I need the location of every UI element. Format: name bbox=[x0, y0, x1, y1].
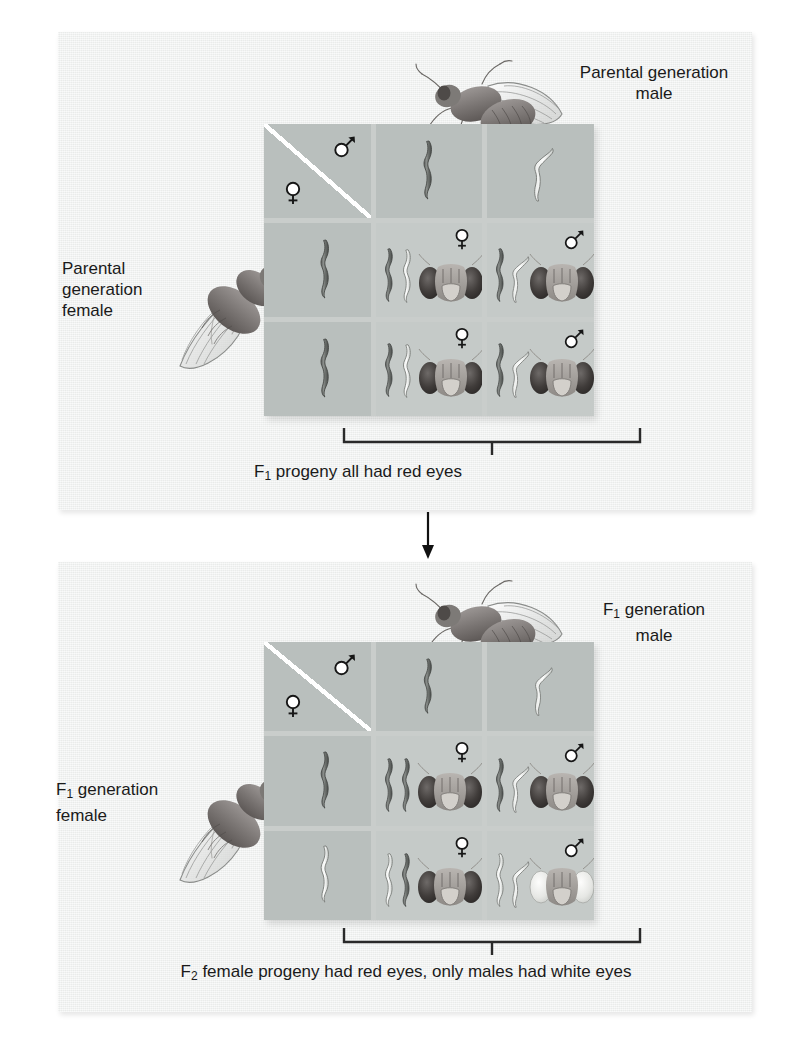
x-chromosome-dark bbox=[380, 340, 400, 402]
f1-female-label: F1 generation female bbox=[56, 758, 216, 826]
f1-progeny-bracket bbox=[340, 424, 644, 456]
x-chromosome-dark bbox=[315, 750, 337, 812]
punnett-corner-header bbox=[264, 124, 371, 218]
y-chromosome-light bbox=[528, 141, 558, 205]
offspring-cell-female-red bbox=[376, 223, 483, 317]
offspring-cell-male-white bbox=[487, 831, 594, 920]
f1-male-label-prefix: F bbox=[603, 600, 613, 619]
female-gamete-x-dark bbox=[264, 736, 371, 825]
x-chromosome-light bbox=[398, 342, 418, 402]
punnett-corner-header bbox=[264, 642, 371, 731]
fly-head-red-eyes bbox=[418, 348, 483, 404]
fly-head-red-eyes bbox=[529, 348, 594, 404]
x-chromosome-dark bbox=[418, 139, 440, 203]
x-chromosome-light bbox=[315, 844, 337, 906]
f2-caption-prefix: F bbox=[181, 962, 191, 981]
down-arrow-icon bbox=[418, 512, 438, 560]
fly-head-red-eyes bbox=[417, 857, 483, 913]
y-chromosome-light bbox=[528, 661, 558, 719]
fly-head-white-eyes bbox=[529, 857, 594, 913]
f2-progeny-bracket bbox=[340, 924, 644, 956]
offspring-cell-male-red bbox=[487, 736, 594, 825]
female-symbol bbox=[280, 693, 306, 719]
f1-male-label-subscript: 1 bbox=[613, 607, 620, 621]
x-chromosome-light bbox=[398, 247, 418, 307]
male-gamete-x bbox=[376, 642, 483, 731]
female-gamete-x-1 bbox=[264, 223, 371, 317]
f1-male-label: F1 generation male bbox=[556, 578, 752, 646]
parental-female-label: Parental generation female bbox=[62, 258, 212, 321]
x-chromosome-dark bbox=[397, 756, 417, 816]
male-symbol bbox=[331, 652, 357, 678]
male-symbol bbox=[331, 134, 357, 160]
female-gamete-x-light bbox=[264, 831, 371, 920]
female-symbol bbox=[280, 180, 306, 206]
f2-caption-rest: female progeny had red eyes, only males … bbox=[198, 962, 632, 981]
f1-caption-prefix: F bbox=[254, 462, 264, 481]
x-chromosome-dark bbox=[315, 237, 337, 303]
offspring-cell-male-red bbox=[487, 322, 594, 416]
fly-head-red-eyes bbox=[417, 762, 483, 818]
x-chromosome-dark bbox=[380, 245, 400, 307]
male-gamete-y bbox=[487, 124, 594, 218]
male-gamete-x bbox=[376, 124, 483, 218]
f1-caption-rest: progeny all had red eyes bbox=[271, 462, 462, 481]
offspring-cell-female-red bbox=[376, 322, 483, 416]
f1-female-label-prefix: F bbox=[56, 780, 66, 799]
offspring-cell-female-red bbox=[376, 736, 483, 825]
x-chromosome-dark bbox=[315, 336, 337, 402]
x-chromosome-dark bbox=[397, 851, 417, 911]
x-chromosome-dark bbox=[418, 657, 440, 717]
fly-head-red-eyes bbox=[529, 762, 594, 818]
fly-head-red-eyes bbox=[529, 253, 594, 309]
genetics-figure: Parental generation male Parental genera… bbox=[0, 0, 796, 1050]
male-symbol bbox=[562, 227, 586, 253]
male-gamete-y bbox=[487, 642, 594, 731]
f1-male-label-rest: generation male bbox=[620, 600, 705, 645]
parental-punnett-square bbox=[264, 124, 594, 416]
fly-head-red-eyes bbox=[418, 253, 483, 309]
offspring-cell-male-red bbox=[487, 223, 594, 317]
f1-punnett-square bbox=[264, 642, 594, 920]
offspring-cell-female-red bbox=[376, 831, 483, 920]
parental-male-label: Parental generation male bbox=[556, 62, 752, 104]
female-symbol bbox=[450, 227, 474, 253]
f2-progeny-caption: F2 female progeny had red eyes, only mal… bbox=[181, 962, 632, 983]
f1-progeny-caption: F1 progeny all had red eyes bbox=[254, 462, 462, 483]
female-gamete-x-2 bbox=[264, 322, 371, 416]
